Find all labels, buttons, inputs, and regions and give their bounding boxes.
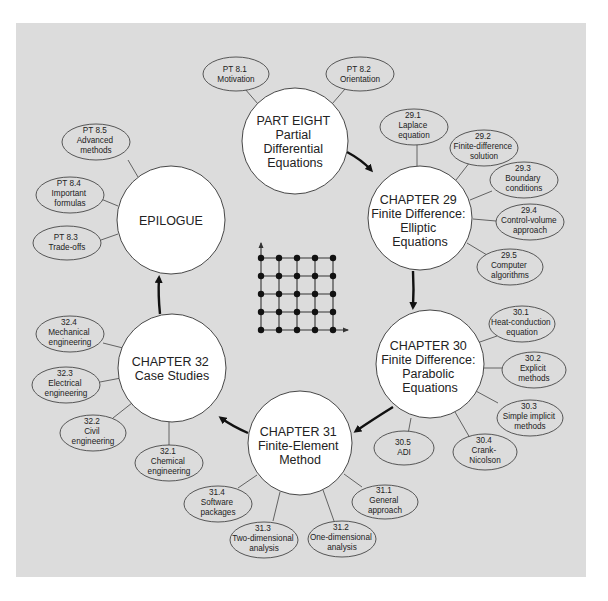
sub-node-label: Chemical — [151, 457, 185, 466]
sub-node-label: Control-volume — [501, 216, 557, 225]
sub-node-number: 29.5 — [501, 251, 517, 260]
sub-node-number: 31.2 — [333, 523, 349, 532]
arrow-ch31-to-ch32 — [221, 418, 248, 433]
svg-text:CHAPTER 32 Case Studie: CHAPTER 32 Case Studies — [132, 355, 213, 383]
arrow-ch32-to-epilogue — [159, 278, 160, 314]
sub-node-label: formulas — [54, 199, 85, 208]
sub-node-label: methods — [80, 146, 111, 155]
sub-node-number: 29.3 — [515, 164, 531, 173]
sub-node-number: 30.1 — [513, 308, 529, 317]
sub-node-label: methods — [518, 374, 549, 383]
sub-node-label: General — [369, 496, 398, 505]
node-title: EPILOGUE — [139, 214, 203, 228]
sub-node-label: analysis — [249, 544, 279, 553]
sub-node-label: approach — [513, 226, 548, 235]
sub-node-30-4[interactable]: 30.4 Crank- Nicolson — [453, 434, 517, 470]
sub-node-pt8-4[interactable]: PT 8.4 Important formulas — [36, 177, 104, 213]
sub-node-32-1[interactable]: 32.1 Chemical engineering — [135, 445, 203, 481]
sub-node-31-1[interactable]: 31.1 General approach — [352, 485, 418, 519]
sub-node-label: ADI — [397, 448, 411, 457]
node-line: Finite Difference: — [371, 207, 465, 221]
sub-node-number: 31.3 — [255, 524, 271, 533]
sub-node-label: Laplace — [399, 121, 428, 130]
svg-text:30.5 ADI: 30.5 ADI — [395, 438, 413, 457]
sub-node-31-3[interactable]: 31.3 Two-dimensional analysis — [230, 522, 298, 558]
node-title: PART EIGHT — [257, 114, 331, 128]
arrow-part8-to-ch29 — [347, 152, 371, 170]
sub-node-number: 30.3 — [521, 402, 537, 411]
sub-node-31-2[interactable]: 31.2 One-dimensional analysis — [308, 521, 376, 557]
sub-node-32-3[interactable]: 32.3 Electrical engineering — [32, 367, 100, 403]
sub-node-label: Finite-difference — [454, 142, 513, 151]
node-part-eight[interactable]: PART EIGHT Partial Differential Equation… — [242, 88, 348, 194]
node-chapter-31[interactable]: CHAPTER 31 Finite-Element Method — [248, 391, 352, 495]
sub-node-label: Two-dimensional — [232, 534, 294, 543]
node-chapter-29[interactable]: CHAPTER 29 Finite Difference: Elliptic E… — [368, 166, 472, 270]
sub-node-pt8-2[interactable]: PT 8.2 Orientation — [326, 57, 394, 91]
sub-node-32-4[interactable]: 32.4 Mechanical engineering — [36, 316, 104, 352]
node-line: Case Studies — [135, 369, 209, 383]
sub-node-30-2[interactable]: 30.2 Explicit methods — [502, 352, 566, 388]
node-line: Differential — [263, 142, 323, 156]
sub-node-label: equation — [506, 328, 538, 337]
sub-node-number: PT 8.4 — [57, 179, 81, 188]
node-line: Equations — [402, 381, 458, 395]
sub-node-pt8-1[interactable]: PT 8.1 Motivation — [203, 57, 269, 91]
sub-node-number: 31.4 — [209, 488, 225, 497]
node-chapter-32[interactable]: CHAPTER 32 Case Studies — [118, 314, 226, 422]
sub-node-number: 29.1 — [405, 111, 421, 120]
sub-node-29-3[interactable]: 29.3 Boundary conditions — [490, 162, 558, 198]
sub-node-number: 30.5 — [395, 438, 411, 447]
node-line: Elliptic — [400, 221, 436, 235]
sub-node-30-3[interactable]: 30.3 Simple implicit methods — [497, 400, 563, 436]
sub-node-label: Advanced — [77, 136, 114, 145]
sub-node-label: One-dimensional — [310, 533, 372, 542]
sub-node-number: PT 8.2 — [347, 65, 371, 74]
svg-text:PT 8.4 Important: PT 8.4 Important formulas — [52, 179, 89, 208]
node-line: Finite-Element — [258, 439, 339, 453]
sub-node-label: Mechanical — [48, 328, 90, 337]
sub-node-number: 32.1 — [160, 447, 176, 456]
node-line: Equations — [267, 156, 323, 170]
sub-node-30-5[interactable]: 30.5 ADI — [374, 431, 434, 465]
sub-node-pt8-5[interactable]: PT 8.5 Advanced methods — [62, 124, 130, 160]
sub-node-32-2[interactable]: 32.2 Civil engineering — [60, 415, 126, 451]
sub-node-label: equation — [398, 131, 430, 140]
sub-node-29-1[interactable]: 29.1 Laplace equation — [380, 109, 448, 145]
sub-node-29-2[interactable]: 29.2 Finite-difference solution — [450, 130, 518, 166]
sub-node-label: approach — [368, 506, 403, 515]
sub-node-number: 31.1 — [376, 486, 392, 495]
sub-node-number: 30.4 — [476, 436, 492, 445]
sub-node-number: 32.2 — [84, 417, 100, 426]
sub-node-pt8-3[interactable]: PT 8.3 Trade-offs — [33, 226, 101, 260]
sub-node-number: 29.2 — [475, 132, 491, 141]
sub-node-number: PT 8.1 — [223, 65, 247, 74]
sub-node-label: Important — [52, 189, 87, 198]
sub-node-label: Software — [201, 498, 234, 507]
node-chapter-30[interactable]: CHAPTER 30 Finite Difference: Parabolic … — [376, 310, 484, 418]
sub-node-number: PT 8.3 — [54, 233, 78, 242]
sub-node-label: analysis — [327, 543, 357, 552]
node-line: Finite Difference: — [381, 353, 475, 367]
node-line: Method — [279, 453, 321, 467]
sub-node-number: 32.3 — [57, 369, 73, 378]
node-epilogue[interactable]: EPILOGUE — [117, 166, 225, 274]
sub-node-31-4[interactable]: 31.4 Software packages — [184, 486, 252, 522]
sub-node-29-5[interactable]: 29.5 Computer algorithms — [477, 249, 543, 285]
svg-text:PART EIGHT Partial: PART EIGHT Partial Differential Equation… — [257, 114, 334, 170]
node-title: CHAPTER 32 — [132, 355, 209, 369]
svg-text:EPILOGUE: EPILOGUE — [139, 214, 203, 228]
sub-node-30-1[interactable]: 30.1 Heat-conduction equation — [489, 306, 555, 342]
node-line: Partial — [276, 128, 311, 142]
sub-node-label: Electrical — [48, 379, 81, 388]
sub-node-number: 30.2 — [525, 354, 541, 363]
node-line: Parabolic — [402, 367, 454, 381]
node-title: CHAPTER 31 — [260, 425, 337, 439]
sub-node-number: 29.4 — [521, 206, 537, 215]
sub-node-label: Explicit — [520, 364, 547, 373]
sub-node-label: Nicolson — [469, 456, 501, 465]
sub-node-29-4[interactable]: 29.4 Control-volume approach — [496, 204, 564, 240]
sub-node-label: Simple implicit — [503, 412, 556, 421]
arrow-ch30-to-ch31 — [356, 407, 393, 431]
finite-difference-grid-icon — [258, 243, 348, 333]
